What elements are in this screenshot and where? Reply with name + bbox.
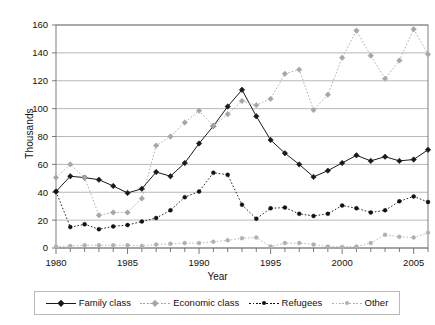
data-point <box>354 245 358 249</box>
data-point <box>96 213 101 218</box>
data-point <box>126 223 130 227</box>
series-line <box>56 90 428 193</box>
legend-item-other[interactable]: Other <box>332 298 389 309</box>
data-point <box>211 240 215 244</box>
data-point <box>153 143 158 148</box>
data-point <box>154 243 158 247</box>
legend-item-economic-class[interactable]: Economic class <box>140 298 239 309</box>
data-point <box>283 241 287 245</box>
data-point <box>354 206 358 210</box>
data-point <box>397 158 402 163</box>
y-tick-label: 80 <box>37 131 48 142</box>
x-axis-title: Year <box>0 271 435 282</box>
y-tick-label: 0 <box>43 242 48 253</box>
data-point <box>97 243 101 247</box>
data-point <box>111 183 116 188</box>
series-other <box>54 231 430 249</box>
data-point <box>111 243 115 247</box>
legend-swatch-dot-icon <box>249 298 279 309</box>
line-chart-canvas: 0204060801001201401601980198519901995200… <box>0 0 435 290</box>
data-point <box>53 175 58 180</box>
y-tick-label: 120 <box>32 75 48 86</box>
data-point <box>183 195 187 199</box>
data-point <box>411 26 416 31</box>
series-economic-class <box>53 26 430 217</box>
data-point <box>412 236 416 240</box>
legend-swatch-diamond-icon <box>140 298 170 309</box>
data-point <box>269 245 273 249</box>
data-point <box>340 203 344 207</box>
legend-label: Family class <box>79 298 131 308</box>
legend-item-family-class[interactable]: Family class <box>46 298 131 309</box>
data-point <box>240 203 244 207</box>
data-point <box>426 200 430 204</box>
data-point <box>139 196 144 201</box>
data-point <box>283 206 287 210</box>
data-point <box>339 55 344 60</box>
data-point <box>254 217 258 221</box>
data-point <box>226 173 230 177</box>
data-point <box>254 102 259 107</box>
data-point <box>354 28 359 33</box>
data-point <box>268 96 273 101</box>
data-point <box>226 238 230 242</box>
data-point <box>326 212 330 216</box>
legend-swatch-diamond-icon <box>46 298 76 309</box>
data-point <box>68 244 72 248</box>
data-point <box>297 241 301 245</box>
data-point <box>140 220 144 224</box>
data-point <box>254 114 259 119</box>
data-point <box>83 222 87 226</box>
data-point <box>269 206 273 210</box>
y-tick-label: 140 <box>32 47 48 58</box>
x-tick-label: 1985 <box>117 257 138 268</box>
data-point <box>325 168 330 173</box>
x-tick-label: 1995 <box>260 257 281 268</box>
data-point <box>111 224 115 228</box>
data-point <box>297 212 301 216</box>
x-tick-label: 1990 <box>189 257 210 268</box>
data-point <box>197 190 201 194</box>
x-tick-label: 1980 <box>45 257 66 268</box>
y-tick-label: 60 <box>37 159 48 170</box>
data-point <box>54 190 58 194</box>
data-point <box>354 153 359 158</box>
plot-area: 0204060801001201401601980198519901995200… <box>0 0 435 290</box>
data-point <box>211 171 215 175</box>
x-tick-label: 2005 <box>403 257 424 268</box>
data-point <box>339 160 344 165</box>
legend-label: Other <box>365 298 389 308</box>
data-point <box>397 199 401 203</box>
data-point <box>168 208 172 212</box>
data-point <box>412 194 416 198</box>
data-point <box>240 236 244 240</box>
data-point <box>325 92 330 97</box>
data-point <box>425 52 430 57</box>
data-point <box>312 214 316 218</box>
y-tick-label: 100 <box>32 103 48 114</box>
data-point <box>312 243 316 247</box>
y-axis-title: Thousands <box>24 79 35 189</box>
data-point <box>383 233 387 237</box>
data-point <box>83 243 87 247</box>
series-line <box>56 173 428 229</box>
data-point <box>125 190 130 195</box>
data-point <box>197 241 201 245</box>
legend-item-refugees[interactable]: Refugees <box>249 298 323 309</box>
data-point <box>97 227 101 231</box>
y-tick-label: 40 <box>37 187 48 198</box>
series-refugees <box>54 171 430 231</box>
data-point <box>126 243 130 247</box>
legend-label: Economic class <box>173 298 239 308</box>
data-point <box>397 235 401 239</box>
legend-swatch-dot-icon <box>332 298 362 309</box>
data-point <box>297 67 302 72</box>
data-point <box>54 245 58 249</box>
y-tick-label: 160 <box>32 19 48 30</box>
data-point <box>96 177 101 182</box>
data-point <box>254 236 258 240</box>
data-point <box>68 225 72 229</box>
data-point <box>168 242 172 246</box>
legend-label: Refugees <box>282 298 323 308</box>
data-point <box>168 134 173 139</box>
